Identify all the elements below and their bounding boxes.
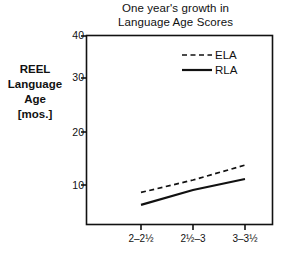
y-axis-ticks: [81, 36, 87, 185]
series-line-ela: [141, 165, 245, 192]
x-axis-ticks: [141, 225, 245, 231]
series-line-rla: [141, 179, 245, 205]
chart-figure: One year's growth in Language Age Scores…: [0, 0, 291, 258]
plot-frame: [87, 36, 273, 225]
chart-canvas: [0, 0, 291, 258]
